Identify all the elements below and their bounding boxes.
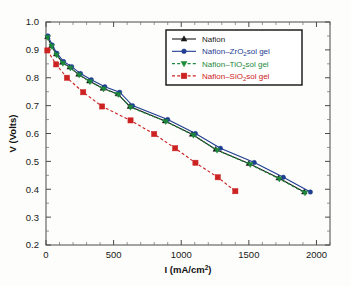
y-tick-label: 0.6 xyxy=(26,128,39,139)
data-point xyxy=(215,175,220,180)
x-tick-label: 2000 xyxy=(306,249,327,260)
chart-figure: 05001000150020000.20.30.40.50.60.70.80.9… xyxy=(0,0,351,286)
x-axis-title: I (mA/cm2) xyxy=(165,264,212,275)
y-axis-title: V (Volts) xyxy=(7,115,18,153)
y-tick-label: 0.9 xyxy=(26,44,39,55)
data-point xyxy=(193,160,198,165)
x-tick-label: 0 xyxy=(43,249,48,260)
x-tick-label: 500 xyxy=(106,249,122,260)
data-point xyxy=(181,73,187,79)
y-tick-label: 1.0 xyxy=(26,16,39,27)
y-tick-label: 0.8 xyxy=(26,72,39,83)
data-point xyxy=(308,190,312,194)
y-tick-label: 0.5 xyxy=(26,156,39,167)
data-point xyxy=(233,189,238,194)
legend-label: Nafion–TiO2sol gel xyxy=(202,60,269,70)
data-point xyxy=(45,48,50,53)
y-tick-label: 0.7 xyxy=(26,100,39,111)
legend-label: Nafion xyxy=(202,35,225,44)
data-point xyxy=(100,104,105,109)
data-point xyxy=(54,62,59,67)
data-point xyxy=(128,118,133,123)
chart-legend: NafionNafion–ZrO2sol gelNafion–TiO2sol g… xyxy=(166,30,302,85)
data-point xyxy=(173,146,178,151)
y-tick-label: 0.4 xyxy=(26,184,39,195)
legend-label: Nafion–ZrO2sol gel xyxy=(202,47,270,57)
y-tick-label: 0.3 xyxy=(26,212,39,223)
y-tick-label: 0.2 xyxy=(26,239,39,250)
legend-label: Nafion–SiO2sol gel xyxy=(202,72,270,82)
x-tick-label: 1000 xyxy=(171,249,192,260)
data-point xyxy=(152,131,157,136)
data-point xyxy=(182,49,187,54)
data-point xyxy=(64,75,69,80)
polarization-chart: 05001000150020000.20.30.40.50.60.70.80.9… xyxy=(0,0,351,286)
x-tick-label: 1500 xyxy=(238,249,259,260)
data-point xyxy=(81,90,86,95)
